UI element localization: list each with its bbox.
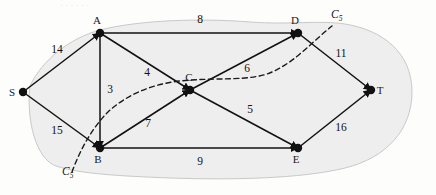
node-A [96, 29, 104, 37]
node-label-E: E [293, 153, 300, 165]
flow-network-figure: · · · · · · [0, 0, 436, 195]
cut-label-subscript-tr: 5 [339, 14, 343, 23]
page-bleed-artifact: · · · · · · [60, 0, 89, 10]
weight-B-C: 7 [145, 117, 151, 129]
node-label-T: T [377, 84, 384, 96]
weight-E-T: 16 [335, 121, 347, 133]
node-S [19, 88, 27, 96]
weight-C-D: 6 [244, 62, 250, 74]
node-label-A: A [93, 14, 101, 26]
cut-label-top-right: C5 [331, 8, 343, 23]
node-label-B: B [94, 153, 101, 165]
weight-A-D: 8 [197, 13, 203, 25]
weight-B-E: 9 [197, 155, 203, 167]
weight-A-B: 3 [107, 83, 113, 95]
node-T [367, 86, 375, 94]
weight-A-C: 4 [144, 66, 150, 78]
node-label-S: S [9, 86, 15, 98]
cut-label-subscript-bl: 5 [70, 171, 74, 180]
weight-S-B: 15 [51, 124, 63, 136]
weight-C-E: 5 [247, 103, 253, 115]
node-B [96, 144, 104, 152]
node-C [186, 86, 194, 94]
node-D [294, 29, 302, 37]
node-E [294, 144, 302, 152]
node-label-C: C [185, 71, 192, 83]
weight-D-T: 11 [335, 47, 346, 59]
weight-S-A: 14 [51, 43, 63, 55]
node-label-D: D [291, 14, 299, 26]
